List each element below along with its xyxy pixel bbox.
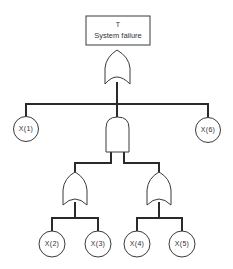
basic-event-label: X(3) xyxy=(91,240,105,248)
top-event-id: T xyxy=(116,21,121,28)
right-or-gate-icon xyxy=(147,172,171,205)
basic-event-x3: X(3) xyxy=(85,231,111,257)
and-left-branch xyxy=(75,152,111,172)
top-event-label: System failure xyxy=(94,31,142,40)
and-right-branch xyxy=(124,152,159,172)
top-or-gate-icon xyxy=(105,50,130,84)
basic-event-label: X(6) xyxy=(201,126,215,134)
basic-event-label: X(4) xyxy=(130,240,144,248)
basic-event-x1: X(1) xyxy=(14,117,39,142)
fault-tree-diagram: T System failure X(1) X(6) X(2) X(3) X(4… xyxy=(0,0,233,269)
middle-and-gate-icon xyxy=(106,117,129,152)
basic-event-x2: X(2) xyxy=(39,231,65,257)
basic-event-label: X(1) xyxy=(19,125,33,133)
left-or-gate-icon xyxy=(63,172,87,205)
top-event: T System failure xyxy=(86,16,150,45)
basic-event-label: X(2) xyxy=(45,240,59,248)
basic-event-x4: X(4) xyxy=(124,231,150,257)
basic-event-x5: X(5) xyxy=(169,231,195,257)
basic-event-x6: X(6) xyxy=(196,118,221,143)
connector-lines xyxy=(26,83,208,231)
basic-event-label: X(5) xyxy=(175,240,189,248)
